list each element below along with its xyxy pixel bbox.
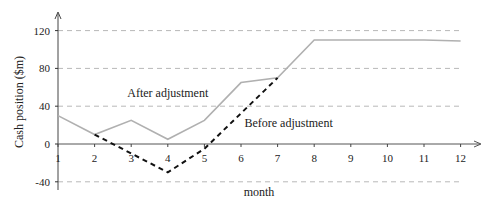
x-tick-label: 1 <box>55 152 61 164</box>
x-tick-label: 12 <box>455 152 466 164</box>
x-tick-label: 10 <box>382 152 394 164</box>
y-tick-label: 0 <box>45 138 51 150</box>
x-tick-label: 11 <box>419 152 430 164</box>
x-tick-label: 8 <box>311 152 317 164</box>
axes <box>55 12 481 190</box>
x-tick-label: 7 <box>275 152 281 164</box>
y-tick-label: 120 <box>34 25 51 37</box>
x-tick-label: 3 <box>128 152 134 164</box>
y-tick-label: -40 <box>35 176 50 188</box>
series-annotation: Before adjustment <box>244 116 333 130</box>
gridlines <box>58 31 462 182</box>
y-axis-label: Cash position ($m) <box>12 56 26 148</box>
x-tick-label: 2 <box>92 152 98 164</box>
chart-svg: 12080400-40123456789101112 After adjustm… <box>0 0 496 204</box>
series-annotation: After adjustment <box>127 86 209 100</box>
x-tick-label: 9 <box>348 152 354 164</box>
x-tick-label: 6 <box>238 152 244 164</box>
x-tick-label: 5 <box>202 152 208 164</box>
x-tick-label: 4 <box>165 152 171 164</box>
x-axis-label: month <box>244 185 275 199</box>
cash-position-chart: 12080400-40123456789101112 After adjustm… <box>0 0 496 204</box>
y-tick-label: 40 <box>39 100 51 112</box>
y-tick-label: 80 <box>39 62 51 74</box>
